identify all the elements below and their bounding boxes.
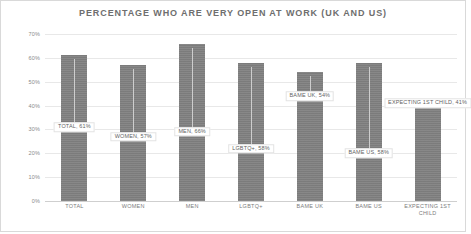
label-leader-line: [251, 67, 252, 149]
x-axis-tick-label: MEN: [160, 203, 224, 210]
x-axis-tick-label: TOTAL: [42, 203, 106, 210]
chart-container: PERCENTAGE WHO ARE VERY OPEN AT WORK (UK…: [0, 0, 466, 232]
y-axis-tick-label: 40%: [28, 103, 40, 109]
bar-data-label: BAME US, 58%: [344, 149, 393, 159]
label-leader-line: [192, 48, 193, 132]
x-axis-tick-label-line: WOMEN: [101, 203, 165, 210]
bar-data-label: WOMEN, 57%: [111, 132, 156, 142]
x-axis-tick-label: LGBTQ+: [219, 203, 283, 210]
x-axis-labels: TOTALWOMENMENLGBTQ+BAME UKBAME USEXPECTI…: [45, 203, 457, 231]
bar-slot: [398, 34, 457, 201]
x-axis-tick-label: BAME US: [337, 203, 401, 210]
x-axis-tick-label-line: CHILD: [396, 210, 460, 217]
x-axis-tick-label-line: BAME UK: [278, 203, 342, 210]
bar[interactable]: [415, 103, 441, 201]
x-axis-tick-label: BAME UK: [278, 203, 342, 210]
chart-title: PERCENTAGE WHO ARE VERY OPEN AT WORK (UK…: [1, 8, 465, 18]
bar-data-label: BAME UK, 54%: [286, 91, 335, 101]
label-leader-line: [74, 59, 75, 127]
bar-data-label: EXPECTING 1ST CHILD, 41%: [384, 98, 471, 108]
y-axis-tick-label: 50%: [28, 79, 40, 85]
y-axis-tick-label: 20%: [28, 150, 40, 156]
y-axis-tick-label: 0%: [32, 198, 40, 204]
bar-data-label: MEN, 66%: [174, 127, 210, 137]
plot-area: 0%10%20%30%40%50%60%70%TOTAL, 61%WOMEN, …: [45, 34, 457, 201]
x-axis-tick-label: EXPECTING 1STCHILD: [396, 203, 460, 217]
bar-data-label: TOTAL, 61%: [54, 122, 95, 132]
x-axis-tick-label-line: BAME US: [337, 203, 401, 210]
x-axis-tick-label: WOMEN: [101, 203, 165, 210]
axis-baseline: 0%: [45, 201, 457, 202]
label-leader-line: [133, 69, 134, 137]
x-axis-tick-label-line: LGBTQ+: [219, 203, 283, 210]
bar-data-label: LGBTQ+, 58%: [228, 144, 274, 154]
x-axis-tick-label-line: TOTAL: [42, 203, 106, 210]
y-axis-tick-label: 60%: [28, 55, 40, 61]
y-axis-tick-label: 30%: [28, 126, 40, 132]
y-axis-tick-label: 10%: [28, 174, 40, 180]
x-axis-tick-label-line: EXPECTING 1ST: [396, 203, 460, 210]
y-axis-tick-label: 70%: [28, 31, 40, 37]
label-leader-line: [369, 67, 370, 154]
x-axis-tick-label-line: MEN: [160, 203, 224, 210]
bar-slot: [280, 34, 339, 201]
